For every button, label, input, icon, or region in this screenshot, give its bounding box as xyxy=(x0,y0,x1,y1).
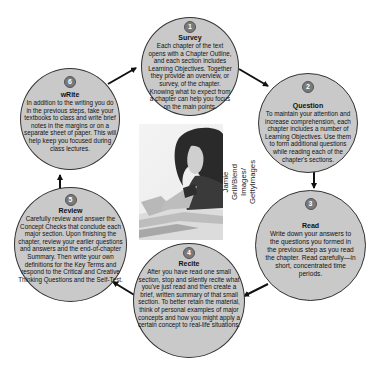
step-recite: 4 Recite After you have read one small s… xyxy=(133,243,245,358)
step-title: Question xyxy=(293,102,323,110)
step-number-badge: 2 xyxy=(302,81,314,93)
arrow-survey-to-question xyxy=(239,69,268,86)
step-number-badge: 6 xyxy=(64,76,76,88)
step-title: Review xyxy=(58,207,82,215)
step-description: After you have read one small section, s… xyxy=(134,268,244,329)
student-studying-photo xyxy=(139,124,223,240)
step-number-badge: 5 xyxy=(65,194,77,206)
step-survey: 1 Survey Each chapter of the text opens … xyxy=(141,17,239,116)
step-number-badge: 4 xyxy=(183,247,195,259)
step-title: Read xyxy=(302,222,319,230)
step-title: Survey xyxy=(178,34,201,42)
step-title: wRite xyxy=(61,91,80,99)
arrow-read-to-recite xyxy=(244,284,268,296)
step-read: 3 Read Write down your answers to the qu… xyxy=(255,190,366,301)
step-description: Carefully review and answer the Concept … xyxy=(15,215,126,283)
arrow-write-to-survey xyxy=(108,68,136,84)
step-description: To maintain your attention and increase … xyxy=(259,110,357,163)
step-number-badge: 3 xyxy=(305,198,317,210)
step-description: Each chapter of the text opens with a Ch… xyxy=(142,42,238,110)
photo-credit: Jamie Grill/Blend Images/ GettyImages xyxy=(229,118,249,246)
step-question: 2 Question To maintain your attention an… xyxy=(258,73,358,173)
step-description: Write down your answers to the questions… xyxy=(256,230,365,277)
sq4r-cycle-diagram: 1 Survey Each chapter of the text opens … xyxy=(0,0,373,367)
step-description: In addition to the writing you do in the… xyxy=(21,99,119,152)
step-review: 5 Review Carefully review and answer the… xyxy=(14,187,127,302)
step-title: Recite xyxy=(178,260,199,268)
student-illustration xyxy=(139,124,223,240)
step-number-badge: 1 xyxy=(184,21,196,33)
photo-credit-text: Jamie Grill/Blend Images/ GettyImages xyxy=(221,160,257,204)
step-write: 6 wRite In addition to the writing you d… xyxy=(20,68,120,170)
